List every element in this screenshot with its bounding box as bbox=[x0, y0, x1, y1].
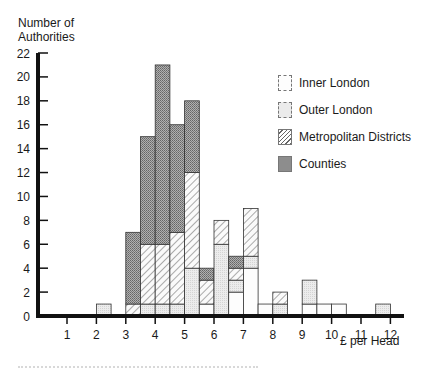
legend-label: Counties bbox=[299, 157, 346, 171]
x-tick-label: 8 bbox=[269, 328, 276, 342]
y-tick-label: 12 bbox=[17, 166, 31, 180]
y-tick-label: 6 bbox=[23, 238, 30, 252]
x-tick-label: 3 bbox=[122, 328, 129, 342]
legend: Inner London Outer London Metropolitan D… bbox=[278, 73, 411, 181]
legend-item-inner-london: Inner London bbox=[278, 73, 411, 92]
bar-segment-outer-london bbox=[185, 268, 200, 316]
bar-segment-metropolitan-districts bbox=[273, 292, 288, 304]
y-tick-label: 16 bbox=[17, 118, 31, 132]
y-tick-label: 22 bbox=[17, 47, 31, 61]
bar-segment-inner-london bbox=[229, 292, 244, 316]
x-tick-label: 4 bbox=[152, 328, 159, 342]
legend-label: Outer London bbox=[299, 103, 372, 117]
x-tick-label: 1 bbox=[64, 328, 71, 342]
bar-segment-counties bbox=[170, 125, 185, 233]
legend-item-outer-london: Outer London bbox=[278, 100, 411, 119]
legend-item-metropolitan-districts: Metropolitan Districts bbox=[278, 127, 411, 146]
x-tick-label: 9 bbox=[299, 328, 306, 342]
y-tick-label: 8 bbox=[23, 214, 30, 228]
y-tick-label: 4 bbox=[23, 262, 30, 276]
bar-segment-metropolitan-districts bbox=[170, 232, 185, 304]
x-tick-label: 6 bbox=[211, 328, 218, 342]
bar-segment-metropolitan-districts bbox=[199, 280, 214, 304]
bar-segment-counties bbox=[126, 232, 141, 304]
x-tick-label: 10 bbox=[325, 328, 339, 342]
bar-segment-outer-london bbox=[229, 280, 244, 292]
cropped-caption bbox=[18, 366, 258, 372]
bar-segment-metropolitan-districts bbox=[243, 208, 258, 256]
bar-segment-counties bbox=[229, 256, 244, 268]
legend-item-counties: Counties bbox=[278, 154, 411, 173]
bar-segment-counties bbox=[199, 268, 214, 280]
bar-segment-metropolitan-districts bbox=[229, 268, 244, 280]
x-tick-label: 7 bbox=[240, 328, 247, 342]
bar-segment-metropolitan-districts bbox=[155, 244, 170, 304]
y-tick-label: 14 bbox=[17, 142, 31, 156]
counties-swatch-icon bbox=[278, 156, 292, 172]
y-tick-label: 20 bbox=[17, 70, 31, 84]
outer-london-swatch-icon bbox=[278, 102, 292, 118]
bar-segment-outer-london bbox=[243, 256, 258, 268]
y-tick-label: 18 bbox=[17, 94, 31, 108]
bar-segment-outer-london bbox=[214, 244, 229, 316]
inner-london-swatch-icon bbox=[278, 75, 292, 91]
histogram-chart: 0246810121416182022123456789101112 bbox=[0, 0, 429, 375]
y-tick-label: 10 bbox=[17, 190, 31, 204]
x-tick-label: 5 bbox=[181, 328, 188, 342]
metropolitan-districts-swatch-icon bbox=[278, 129, 292, 145]
legend-label: Metropolitan Districts bbox=[299, 130, 411, 144]
bar-segment-metropolitan-districts bbox=[141, 244, 156, 304]
y-tick-label: 0 bbox=[23, 310, 30, 324]
legend-label: Inner London bbox=[299, 76, 370, 90]
bar-segment-counties bbox=[141, 137, 156, 245]
bar-segment-inner-london bbox=[243, 268, 258, 316]
x-axis-label: £ per Head bbox=[340, 334, 399, 348]
bar-segment-outer-london bbox=[302, 280, 317, 304]
bar-segment-counties bbox=[155, 65, 170, 244]
bar-segment-counties bbox=[185, 101, 200, 173]
y-tick-label: 2 bbox=[23, 286, 30, 300]
bar-segment-metropolitan-districts bbox=[214, 220, 229, 244]
bar-segment-metropolitan-districts bbox=[185, 173, 200, 269]
x-tick-label: 2 bbox=[93, 328, 100, 342]
